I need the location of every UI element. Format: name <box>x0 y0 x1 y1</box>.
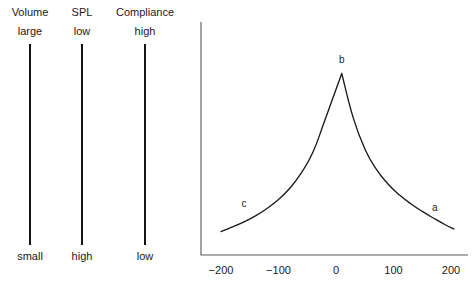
x-tick-100: 100 <box>374 264 414 277</box>
x-tick-0: 0 <box>316 264 356 277</box>
scale-compliance-bar <box>144 44 146 245</box>
scale-compliance: Compliance high low <box>85 0 205 270</box>
chart-canvas <box>196 0 473 295</box>
tympanogram-chart: −200−1000100200 abc <box>196 0 473 295</box>
scale-compliance-top-label: high <box>85 25 205 38</box>
point-c-label: c <box>234 198 254 210</box>
scale-spl-bar <box>81 44 83 245</box>
scale-compliance-title: Compliance <box>85 6 205 19</box>
tympanogram-curve <box>221 73 454 231</box>
scale-compliance-bottom-label: low <box>85 250 205 263</box>
x-tick-neg100: −100 <box>259 264 299 277</box>
x-tick-neg200: −200 <box>201 264 241 277</box>
figure-root: Volume large small SPL low high Complian… <box>0 0 473 295</box>
x-tick-200: 200 <box>431 264 471 277</box>
point-a-label: a <box>425 202 445 214</box>
point-b-label: b <box>332 54 352 66</box>
